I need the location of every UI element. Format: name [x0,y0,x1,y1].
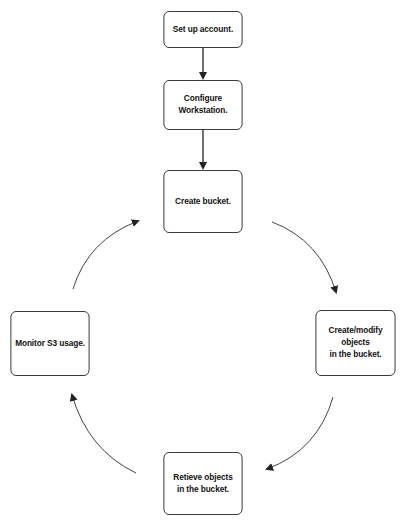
node-create-modify-objects: Create/modify objects in the bucket. [315,310,395,376]
node-retrieve-objects: Retieve objects in the bucket. [163,452,242,515]
node-label: Create bucket. [175,196,231,208]
node-monitor-s3-usage: Monitor S3 usage. [10,311,89,376]
node-configure-workstation: Configure Workstation. [163,80,242,130]
diagram-canvas: Set up account. Configure Workstation. C… [0,0,411,527]
node-label: Retieve objects in the bucket. [173,472,232,495]
arrow-create-bucket-to-create-modify [272,222,336,292]
arrow-retrieve-to-monitor [72,395,136,473]
node-create-bucket: Create bucket. [163,170,242,233]
node-set-up-account: Set up account. [163,11,242,48]
node-label: Set up account. [173,24,233,36]
arrow-create-modify-to-retrieve [267,397,333,469]
node-label: Create/modify objects in the bucket. [328,325,382,360]
arrow-monitor-to-create-bucket [73,221,138,289]
node-label: Monitor S3 usage. [15,338,85,350]
node-label: Configure Workstation. [179,93,228,116]
